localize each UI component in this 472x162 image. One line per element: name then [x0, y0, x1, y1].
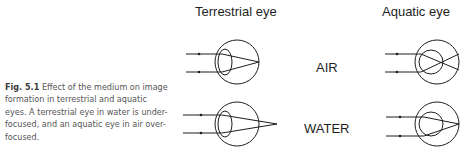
- eye-diagrams: [0, 0, 472, 162]
- terrestrial-eye-air-diagram: [186, 40, 259, 84]
- aquatic-eye-air-diagram: [385, 40, 459, 84]
- aquatic-eye-water-diagram: [386, 102, 459, 146]
- terrestrial-eye-water-diagram: [183, 102, 277, 146]
